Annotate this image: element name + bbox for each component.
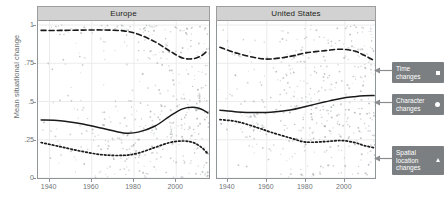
- y-tick-mark: [33, 140, 36, 141]
- x-tick-mark: [49, 179, 50, 182]
- annotation-spatial-location-changes-label: Spatial location changes: [396, 149, 433, 172]
- circle-marker-icon: [435, 102, 440, 107]
- facet-strip-europe: Europe: [37, 6, 210, 21]
- y-tick-mark: [33, 25, 36, 26]
- square-marker-icon: [436, 71, 440, 75]
- annotation-spatial-location-changes: Spatial location changes: [392, 146, 444, 175]
- annotation-time-changes-label: Time changes: [396, 65, 433, 80]
- facet-panel-europe: Europe: [37, 6, 210, 179]
- trend-line: [41, 141, 208, 155]
- plot-svg-united-states: [217, 21, 376, 179]
- y-tick-mark: [33, 178, 36, 179]
- x-tick-label: 1940: [34, 183, 64, 190]
- annotation-character-changes-label: Character changes: [396, 97, 432, 112]
- triangle-marker-icon: [436, 158, 440, 162]
- x-tick-mark: [266, 179, 267, 182]
- trend-line: [220, 95, 374, 112]
- y-tick-mark: [33, 102, 36, 103]
- x-tick-label: 1960: [251, 183, 281, 190]
- facet-strip-united-states: United States: [216, 6, 376, 21]
- plot-svg-europe: [38, 21, 210, 179]
- x-tick-label: 2000: [160, 183, 190, 190]
- y-tick-label: .25: [4, 136, 34, 143]
- x-tick-label: 1940: [212, 183, 242, 190]
- y-axis-ticks: 0.25.5.751: [0, 0, 34, 211]
- plot-area-europe: [37, 21, 210, 179]
- x-tick-label: 1980: [118, 183, 148, 190]
- annotation-character-changes: Character changes: [392, 94, 444, 115]
- x-tick-mark: [227, 179, 228, 182]
- chart-root: Mean situational change 0.25.5.751 Europ…: [0, 0, 444, 211]
- trend-line: [41, 30, 208, 59]
- x-tick-mark: [344, 179, 345, 182]
- y-tick-label: .75: [4, 59, 34, 66]
- y-tick-label: .5: [4, 98, 34, 105]
- x-tick-mark: [133, 179, 134, 182]
- x-tick-label: 1960: [76, 183, 106, 190]
- x-tick-mark: [305, 179, 306, 182]
- y-tick-mark: [33, 63, 36, 64]
- annotation-arrow-character: [374, 98, 392, 107]
- annotation-arrow-time: [374, 66, 392, 75]
- trend-line: [220, 120, 374, 148]
- y-tick-label: 1: [4, 21, 34, 28]
- facet-panel-united-states: United States: [216, 6, 376, 179]
- x-tick-mark: [175, 179, 176, 182]
- y-tick-label: 0: [4, 174, 34, 181]
- x-tick-label: 1980: [290, 183, 320, 190]
- annotation-arrow-spatial: [374, 154, 392, 163]
- x-tick-label: 2000: [329, 183, 359, 190]
- trend-line: [220, 47, 374, 60]
- x-tick-mark: [91, 179, 92, 182]
- trend-line: [41, 107, 208, 133]
- plot-area-united-states: [216, 21, 376, 179]
- annotation-time-changes: Time changes: [392, 62, 444, 83]
